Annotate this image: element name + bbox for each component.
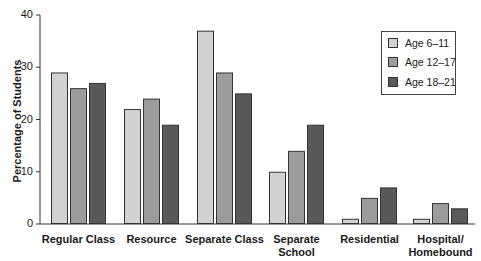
legend-item-age-18-21: Age 18–21 <box>388 75 456 89</box>
bar <box>90 83 106 223</box>
bar <box>163 125 179 223</box>
bar <box>433 204 449 224</box>
bar <box>452 209 468 224</box>
y-tick-label: 30 <box>13 60 33 72</box>
bar-group <box>52 73 106 224</box>
bar <box>144 99 160 223</box>
bar <box>381 188 397 224</box>
bar-group <box>270 125 324 223</box>
legend-swatch-icon <box>388 77 398 87</box>
y-tick-label: 10 <box>13 165 33 177</box>
bar <box>362 198 378 223</box>
legend-swatch-icon <box>388 38 398 48</box>
bar <box>270 172 286 223</box>
bar-group <box>414 204 468 224</box>
legend-item-age-6-11: Age 6–11 <box>388 36 449 50</box>
legend-swatch-icon <box>388 57 398 67</box>
bar <box>217 73 233 224</box>
bar <box>343 219 359 223</box>
grouped-bar-chart: Percentage of Students 010203040 Regular… <box>0 0 481 261</box>
bar-group <box>125 99 179 223</box>
bar <box>52 73 68 224</box>
bar <box>125 110 141 224</box>
legend-label: Age 18–21 <box>405 76 456 88</box>
legend-label: Age 6–11 <box>405 37 449 49</box>
legend-label: Age 12–17 <box>405 56 456 68</box>
legend-item-age-12-17: Age 12–17 <box>388 55 456 69</box>
bar <box>71 89 87 224</box>
bar <box>414 219 430 223</box>
y-tick-label: 0 <box>13 217 33 229</box>
bar-group <box>343 188 397 224</box>
y-tick-label: 20 <box>13 113 33 125</box>
bar <box>308 125 324 223</box>
legend: Age 6–11 Age 12–17 Age 18–21 <box>381 31 456 95</box>
bar <box>236 94 252 224</box>
bar <box>289 151 305 223</box>
bar-group <box>198 31 252 223</box>
y-tick-label: 40 <box>13 8 33 20</box>
x-category-label: Hospital/Homebound <box>396 233 481 259</box>
bar <box>198 31 214 223</box>
